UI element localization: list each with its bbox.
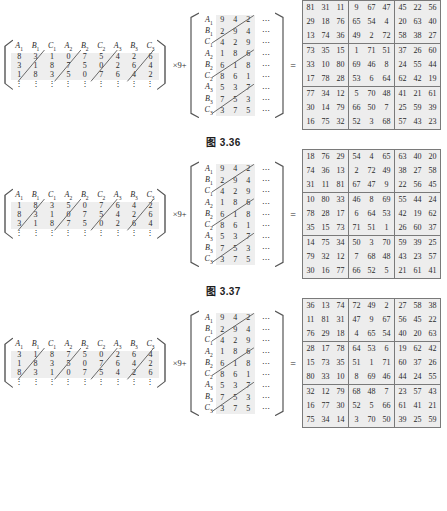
result-matrix-cell: 25	[394, 101, 410, 115]
mid-matrix-cell: 1	[229, 60, 242, 71]
result-matrix-cell: 21	[425, 399, 441, 413]
result-matrix-cell: 14	[333, 413, 349, 428]
result-matrix-cell: 15	[318, 221, 333, 236]
result-matrix-cell: 11	[318, 178, 333, 193]
mid-matrix-row: B2618⋯	[197, 358, 278, 369]
mid-matrix-row-label: A3	[197, 231, 216, 242]
result-matrix-row: 77341257048412161	[302, 87, 440, 102]
result-matrix-wrapper: 1876295446563402074361327249382758311181…	[302, 149, 447, 279]
result-matrix-cell: 26	[425, 356, 441, 370]
vertical-ellipsis-icon: ⋮	[44, 229, 61, 238]
result-matrix-cell: 50	[364, 101, 379, 115]
mid-matrix-cell: 2	[216, 324, 229, 335]
mid-matrix-row: B2618⋯	[197, 209, 278, 220]
mid-matrix-row: A2186⋯	[197, 49, 278, 60]
mid-matrix-cell: 8	[216, 220, 229, 231]
result-matrix-row: 81311196747452256	[302, 1, 440, 16]
result-matrix-cell: 5	[379, 264, 395, 279]
mid-matrix-cell: 7	[242, 231, 255, 242]
horizontal-ellipsis-icon: ⋯	[255, 254, 278, 265]
result-matrix-cell: 80	[318, 193, 333, 208]
result-matrix-cell: 50	[348, 236, 364, 251]
horizontal-ellipsis-icon: ⋯	[255, 335, 278, 346]
result-matrix-row: 28177864536196242	[302, 342, 440, 357]
result-matrix-cell: 27	[425, 29, 441, 44]
horizontal-ellipsis-icon: ⋯	[255, 105, 278, 116]
result-matrix-cell: 18	[302, 150, 318, 165]
result-matrix-cell: 44	[425, 58, 441, 72]
mid-matrix-cell: 1	[216, 49, 229, 60]
result-matrix-cell: 18	[318, 15, 333, 29]
result-matrix-cell: 48	[379, 250, 395, 264]
result-matrix-cell: 48	[379, 87, 395, 102]
result-matrix-cell: 30	[302, 101, 318, 115]
result-matrix-cell: 40	[410, 150, 425, 165]
result-matrix-cell: 9	[379, 178, 395, 193]
result-matrix-cell: 10	[302, 193, 318, 208]
result-matrix-cell: 10	[318, 58, 333, 72]
result-matrix-cell: 27	[410, 164, 425, 178]
result-matrix-cell: 48	[364, 385, 379, 400]
result-matrix-cell: 21	[394, 264, 410, 279]
result-matrix-cell: 59	[425, 413, 441, 428]
result-matrix-cell: 36	[318, 164, 333, 178]
result-matrix-cell: 75	[318, 115, 333, 130]
mid-matrix-cell: 3	[216, 105, 229, 116]
horizontal-ellipsis-icon: ⋯	[255, 220, 278, 231]
result-matrix-cell: 81	[333, 178, 349, 193]
mid-matrix-row: A3537⋯	[197, 231, 278, 242]
horizontal-ellipsis-icon: ⋯	[255, 37, 278, 48]
result-matrix-cell: 1	[379, 221, 395, 236]
result-matrix-cell: 30	[302, 264, 318, 279]
result-matrix-cell: 20	[410, 327, 425, 342]
mid-matrix-cell: 7	[216, 243, 229, 254]
mid-matrix-row: C2861⋯	[197, 220, 278, 231]
mid-matrix-row: B1294⋯	[197, 324, 278, 335]
result-matrix-cell: 62	[425, 207, 441, 221]
result-matrix-cell: 62	[394, 72, 410, 87]
result-matrix-cell: 28	[333, 72, 349, 87]
result-matrix-cell: 31	[302, 178, 318, 193]
mid-matrix-cell: 8	[216, 369, 229, 380]
result-matrix-cell: 54	[379, 327, 395, 342]
mid-matrix-cell: 2	[229, 186, 242, 197]
result-matrix-cell: 60	[394, 356, 410, 370]
result-matrix-cell: 39	[425, 101, 441, 115]
horizontal-ellipsis-icon: ⋯	[255, 313, 278, 324]
figure-fig-3-37: A1B1C1A2B2C2A3B3C31835076428310754263187…	[0, 149, 447, 298]
vertical-ellipsis-icon: ⋮	[142, 80, 159, 89]
mid-matrix-cell: 9	[216, 15, 229, 26]
result-matrix-cell: 45	[410, 313, 425, 327]
result-matrix-cell: 52	[348, 115, 364, 130]
result-matrix-cell: 39	[394, 413, 410, 428]
result-matrix-cell: 54	[348, 150, 364, 165]
mid-matrix-cell: 9	[242, 335, 255, 346]
result-matrix-cell: 73	[333, 221, 349, 236]
mid-matrix-cell: 3	[242, 392, 255, 403]
result-matrix-cell: 4	[379, 15, 395, 29]
figure-fig-3-38: A1B1C1A2B2C2A3B3C33187502641835076428310…	[0, 298, 447, 432]
result-matrix-cell: 32	[318, 250, 333, 264]
result-matrix-cell: 36	[333, 29, 349, 44]
left-matrix-wrapper: A1B1C1A2B2C2A3B3C33187502641835076428310…	[0, 337, 170, 389]
result-matrix-row: 36137472492275838	[302, 299, 440, 314]
result-matrix-cell: 19	[425, 72, 441, 87]
mid-matrix-cell: 8	[216, 71, 229, 82]
result-matrix-row: 29187665544206340	[302, 15, 440, 29]
result-matrix-cell: 42	[394, 207, 410, 221]
result-matrix-cell: 17	[333, 207, 349, 221]
mid-matrix-cell: 8	[242, 209, 255, 220]
result-matrix-row: 74361327249382758	[302, 164, 440, 178]
result-matrix-cell: 44	[410, 193, 425, 208]
result-matrix-cell: 70	[364, 87, 379, 102]
result-matrix-row: 30167766525216141	[302, 264, 440, 279]
result-matrix-cell: 67	[379, 313, 395, 327]
result-matrix-cell: 76	[333, 15, 349, 29]
result-matrix-cell: 56	[425, 1, 441, 16]
mid-matrix-cell: 1	[216, 347, 229, 358]
vertical-ellipsis-icon: ⋮	[93, 229, 110, 238]
result-matrix-cell: 79	[333, 101, 349, 115]
result-matrix-cell: 79	[302, 250, 318, 264]
horizontal-ellipsis-icon: ⋯	[255, 243, 278, 254]
result-matrix-cell: 71	[379, 356, 395, 370]
